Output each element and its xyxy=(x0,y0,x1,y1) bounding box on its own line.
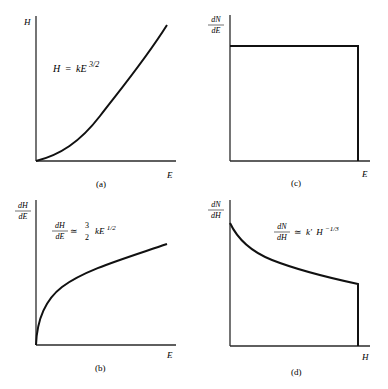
panel-b-x-label: E xyxy=(166,350,173,360)
panel-b: dH dE dH dE ≃ 3 2 kE 1/2 E (b) xyxy=(15,200,176,373)
panel-a-equation: H = kE 3/2 xyxy=(52,60,99,74)
svg-text:dH: dH xyxy=(277,233,288,242)
panel-b-curve xyxy=(36,244,167,345)
panel-a: H E H = kE 3/2 (a) xyxy=(23,16,176,189)
svg-text:2: 2 xyxy=(85,233,89,242)
svg-text:dH: dH xyxy=(211,211,222,220)
panel-d-equation: dN dH ≃ k′ H −1/3 xyxy=(274,222,339,242)
panel-c-x-label: E xyxy=(361,169,368,179)
panel-a-caption: (a) xyxy=(96,179,106,189)
figure-canvas: H E H = kE 3/2 (a) dN dE E (c) dH dE xyxy=(0,0,388,389)
svg-text:dN: dN xyxy=(277,222,287,231)
panel-d-y-label: dN dH xyxy=(208,200,224,220)
svg-text:dH: dH xyxy=(18,201,29,210)
panel-d-curve xyxy=(230,223,358,346)
svg-text:3: 3 xyxy=(85,221,89,230)
panel-c-y-label: dN dE xyxy=(208,15,224,35)
svg-text:kE 1/2: kE 1/2 xyxy=(95,224,116,236)
panel-a-curve xyxy=(36,25,167,161)
panel-d: dN dH dN dH ≃ k′ H −1/3 H (d) xyxy=(208,200,370,377)
svg-text:≃: ≃ xyxy=(294,227,302,237)
panel-b-y-label: dH dE xyxy=(15,201,31,221)
svg-text:dH: dH xyxy=(55,221,66,230)
panel-d-x-label: H xyxy=(361,352,369,362)
svg-text:dE: dE xyxy=(212,26,221,35)
svg-text:≃: ≃ xyxy=(70,226,78,236)
svg-text:dE: dE xyxy=(56,232,65,241)
panel-c: dN dE E (c) xyxy=(208,15,370,188)
panel-a-x-label: E xyxy=(166,170,173,180)
panel-c-caption: (c) xyxy=(291,178,301,188)
svg-text:dN: dN xyxy=(211,15,221,24)
svg-text:k′ H −1/3: k′ H −1/3 xyxy=(306,225,339,237)
panel-d-caption: (d) xyxy=(291,367,302,377)
panel-b-equation: dH dE ≃ 3 2 kE 1/2 xyxy=(52,221,116,242)
panel-b-caption: (b) xyxy=(95,363,106,373)
panel-c-step-curve xyxy=(230,46,358,161)
svg-text:dN: dN xyxy=(211,200,221,209)
svg-text:dE: dE xyxy=(19,212,28,221)
panel-a-y-label: H xyxy=(23,17,31,27)
